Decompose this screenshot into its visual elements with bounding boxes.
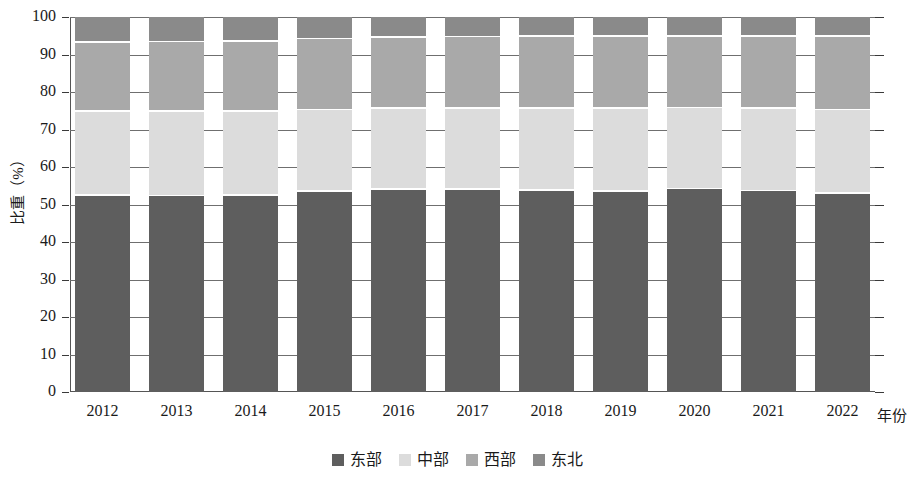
y-axis-tick-mark xyxy=(62,205,69,206)
legend-swatch-icon xyxy=(466,454,478,466)
bar-segment-northeast[interactable] xyxy=(445,17,500,37)
segment-separator xyxy=(371,36,426,38)
segment-separator xyxy=(149,195,204,197)
bar-segment-east[interactable] xyxy=(223,196,278,393)
segment-separator xyxy=(149,110,204,112)
y-axis-tick-label: 30 xyxy=(0,271,56,287)
bar-stack[interactable] xyxy=(667,17,722,392)
y-axis-tick-label: 60 xyxy=(0,158,56,174)
x-axis-tick-label: 2018 xyxy=(507,402,587,420)
bar-segment-northeast[interactable] xyxy=(741,17,796,37)
bar-segment-northeast[interactable] xyxy=(519,17,574,37)
y-axis-tick-mark xyxy=(62,317,69,318)
bar-stack[interactable] xyxy=(149,17,204,392)
legend-item[interactable]: 东部 xyxy=(332,452,382,468)
segment-separator xyxy=(593,190,648,192)
legend-item[interactable]: 东北 xyxy=(533,452,583,468)
bar-segment-central[interactable] xyxy=(445,109,500,190)
bar-segment-northeast[interactable] xyxy=(297,17,352,39)
bar-segment-east[interactable] xyxy=(519,191,574,392)
x-axis-tick-label: 2019 xyxy=(581,402,661,420)
bar-segment-east[interactable] xyxy=(741,191,796,392)
bar-segment-northeast[interactable] xyxy=(149,17,204,42)
bar-stack[interactable] xyxy=(445,17,500,392)
bar-segment-west[interactable] xyxy=(149,42,204,112)
bar-segment-west[interactable] xyxy=(667,37,722,109)
bar-segment-central[interactable] xyxy=(75,112,130,196)
y-axis-tick-mark xyxy=(62,167,69,168)
legend-swatch-icon xyxy=(533,454,545,466)
bar-segment-northeast[interactable] xyxy=(667,17,722,37)
bar-segment-west[interactable] xyxy=(815,37,870,111)
bar-segment-east[interactable] xyxy=(815,194,870,392)
segment-separator xyxy=(593,107,648,109)
legend-label: 东北 xyxy=(551,452,583,468)
bar-segment-east[interactable] xyxy=(371,190,426,393)
legend-label: 西部 xyxy=(484,452,516,468)
legend-label: 东部 xyxy=(350,452,382,468)
bar-segment-northeast[interactable] xyxy=(815,17,870,37)
legend-label: 中部 xyxy=(417,452,449,468)
bar-segment-central[interactable] xyxy=(297,110,352,192)
plot-area xyxy=(70,17,875,392)
x-axis-tick-label: 2017 xyxy=(433,402,513,420)
bar-segment-central[interactable] xyxy=(149,112,204,196)
x-axis-tick-label: 2022 xyxy=(803,402,883,420)
bar-segment-west[interactable] xyxy=(519,37,574,109)
bar-segment-east[interactable] xyxy=(593,192,648,392)
bar-stack[interactable] xyxy=(297,17,352,392)
bar-stack[interactable] xyxy=(223,17,278,392)
y-axis-tick-mark-right xyxy=(875,17,884,18)
chart-legend: 东部中部西部东北 xyxy=(0,452,915,468)
legend-item[interactable]: 西部 xyxy=(466,452,516,468)
bar-segment-central[interactable] xyxy=(223,112,278,196)
segment-separator xyxy=(445,107,500,109)
bar-segment-west[interactable] xyxy=(445,37,500,109)
bar-segment-east[interactable] xyxy=(445,190,500,392)
bar-stack[interactable] xyxy=(815,17,870,392)
y-axis-tick-mark xyxy=(62,280,69,281)
bar-segment-west[interactable] xyxy=(75,43,130,112)
bar-segment-central[interactable] xyxy=(815,110,870,193)
bar-segment-central[interactable] xyxy=(667,108,722,189)
segment-separator xyxy=(223,194,278,196)
y-axis-tick-label: 50 xyxy=(0,196,56,212)
bar-segment-west[interactable] xyxy=(593,37,648,109)
y-axis-tick-mark-right xyxy=(875,280,884,281)
bar-segment-west[interactable] xyxy=(741,37,796,109)
bar-stack[interactable] xyxy=(371,17,426,392)
bar-segment-east[interactable] xyxy=(297,192,352,392)
legend-item[interactable]: 中部 xyxy=(399,452,449,468)
bar-segment-west[interactable] xyxy=(371,38,426,109)
bar-segment-northeast[interactable] xyxy=(75,17,130,43)
x-axis-title: 年份 xyxy=(877,404,907,425)
x-axis-tick-label: 2020 xyxy=(655,402,735,420)
bar-stack[interactable] xyxy=(519,17,574,392)
y-axis-tick-mark xyxy=(62,55,69,56)
y-axis-tick-label: 0 xyxy=(0,383,56,399)
bar-segment-west[interactable] xyxy=(297,39,352,110)
bar-segment-east[interactable] xyxy=(667,189,722,392)
segment-separator xyxy=(297,109,352,111)
bar-segment-northeast[interactable] xyxy=(371,17,426,38)
segment-separator xyxy=(815,35,870,37)
bar-segment-east[interactable] xyxy=(149,196,204,392)
segment-separator xyxy=(371,107,426,109)
bar-segment-northeast[interactable] xyxy=(593,17,648,37)
bar-segment-central[interactable] xyxy=(371,109,426,190)
bar-stack[interactable] xyxy=(593,17,648,392)
bar-segment-east[interactable] xyxy=(75,196,130,392)
segment-separator xyxy=(75,110,130,112)
bar-stack[interactable] xyxy=(75,17,130,392)
bar-segment-west[interactable] xyxy=(223,42,278,112)
bar-segment-central[interactable] xyxy=(519,109,574,191)
bar-segment-central[interactable] xyxy=(593,109,648,192)
bar-stack[interactable] xyxy=(741,17,796,392)
y-axis-tick-mark xyxy=(62,92,69,93)
y-axis-tick-label: 10 xyxy=(0,346,56,362)
y-axis-tick-label: 80 xyxy=(0,83,56,99)
y-axis-tick-label: 40 xyxy=(0,233,56,249)
bar-segment-central[interactable] xyxy=(741,109,796,192)
bar-segment-northeast[interactable] xyxy=(223,17,278,42)
y-axis-tick-mark xyxy=(62,355,69,356)
